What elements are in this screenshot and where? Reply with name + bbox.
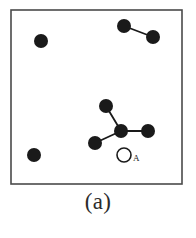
figure-caption: (a) [0, 190, 196, 213]
particle-cluster-top [99, 99, 113, 113]
particle-lower-left [27, 148, 41, 162]
open-site-label: A [133, 153, 140, 163]
particle-cluster-hub [114, 124, 128, 138]
figure-panel: A (a) [0, 0, 196, 238]
particle-dimer-left [117, 19, 131, 33]
particle-upper-left [34, 34, 48, 48]
particle-cluster-lowerleft [88, 136, 102, 150]
particle-cluster-right [141, 124, 155, 138]
particle-dimer-right [146, 30, 160, 44]
